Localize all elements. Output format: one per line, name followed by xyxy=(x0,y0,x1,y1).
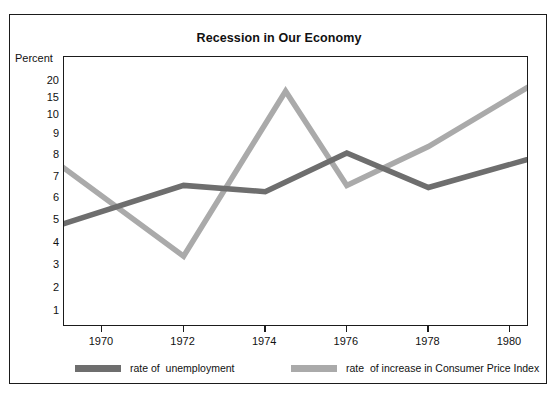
x-axis-tick-mark xyxy=(264,326,265,332)
y-axis-tick-label: 8 xyxy=(13,149,59,160)
y-axis-tick-label: 1 xyxy=(13,305,59,316)
chart-title: Recession in Our Economy xyxy=(10,31,548,45)
x-axis-tick-label: 1980 xyxy=(485,335,533,347)
legend-item-cpi: rate of increase in Consumer Price Index xyxy=(291,360,539,376)
legend-label-unemployment: rate of unemployment xyxy=(130,362,234,374)
y-axis-tick-label: 6 xyxy=(13,192,59,203)
legend-swatch-cpi xyxy=(291,365,337,372)
y-axis-tick-label: 5 xyxy=(13,214,59,225)
x-axis-ticks: 197019721974197619781980 xyxy=(63,326,528,360)
chart-legend: rate of unemployment rate of increase in… xyxy=(10,360,548,384)
plot-area xyxy=(63,56,528,326)
x-axis-tick-mark xyxy=(509,326,510,332)
series-line-cpi xyxy=(64,76,528,256)
y-axis-tick-label: 15 xyxy=(13,92,59,103)
x-axis-tick-label: 1976 xyxy=(322,335,370,347)
y-axis-tick-label: 3 xyxy=(13,259,59,270)
y-axis-tick-label: 4 xyxy=(13,237,59,248)
y-axis-tick-label: 2 xyxy=(13,282,59,293)
series-line-unemployment xyxy=(64,153,528,225)
x-axis-tick-label: 1972 xyxy=(159,335,207,347)
y-axis-tick-label: 9 xyxy=(13,128,59,139)
legend-swatch-unemployment xyxy=(75,365,121,372)
plot-lines xyxy=(64,57,528,326)
x-axis-tick-mark xyxy=(427,326,428,332)
x-axis-tick-label: 1974 xyxy=(240,335,288,347)
x-axis-tick-mark xyxy=(101,326,102,332)
y-axis-tick-labels: 201510987654321 xyxy=(10,56,59,326)
x-axis-tick-mark xyxy=(346,326,347,332)
chart-frame: Recession in Our Economy Percent 2015109… xyxy=(9,14,547,384)
chart-figure: Recession in Our Economy Percent 2015109… xyxy=(0,0,557,397)
y-axis-tick-label: 7 xyxy=(13,171,59,182)
y-axis-tick-label: 20 xyxy=(13,75,59,86)
x-axis-tick-label: 1978 xyxy=(403,335,451,347)
y-axis-tick-label: 10 xyxy=(13,109,59,120)
legend-item-unemployment: rate of unemployment xyxy=(75,360,234,376)
legend-label-cpi: rate of increase in Consumer Price Index xyxy=(346,362,539,374)
x-axis-tick-mark xyxy=(183,326,184,332)
x-axis-tick-label: 1970 xyxy=(77,335,125,347)
